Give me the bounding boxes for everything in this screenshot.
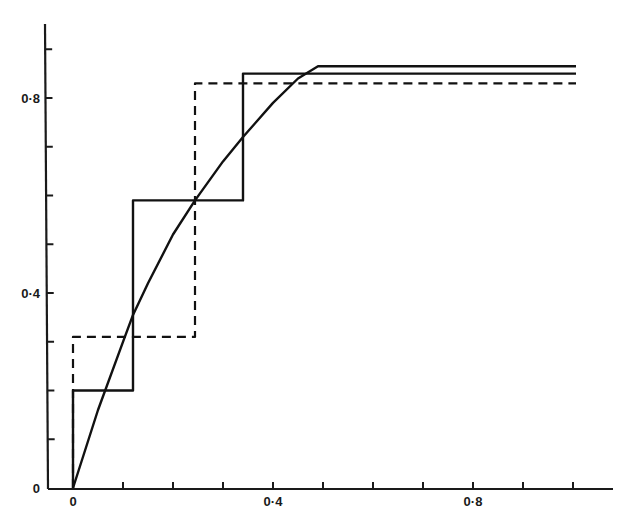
axes xyxy=(45,24,613,489)
step-function-chart: 00·40·8 00·40·8 xyxy=(0,0,632,528)
x-tick-label: 0 xyxy=(69,494,76,509)
series-group xyxy=(73,66,576,488)
y-tick-label: 0·8 xyxy=(21,91,40,106)
y-axis xyxy=(45,24,48,489)
y-tick-labels: 00·40·8 xyxy=(21,91,41,496)
x-tick-labels: 00·40·8 xyxy=(69,494,482,509)
x-tick-label: 0·8 xyxy=(464,494,483,509)
x-tick-label: 0·4 xyxy=(264,494,284,509)
smooth-curve-line xyxy=(73,66,576,488)
y-tick-label: 0·4 xyxy=(21,286,41,301)
dashed-step-line xyxy=(73,83,576,488)
y-tick-label: 0 xyxy=(33,481,40,496)
